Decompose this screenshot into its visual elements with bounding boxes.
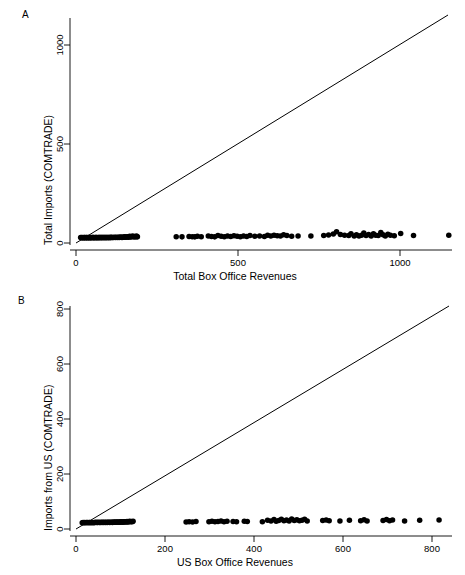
data-point: [173, 234, 179, 240]
panel-b-point-cloud: [79, 516, 441, 525]
panel-a-y-axis-title: Total Imports (COMTRADE): [42, 115, 54, 245]
panel-b-yticklabel-0: 0: [55, 526, 65, 531]
data-point: [304, 518, 310, 524]
panel-b-yticklabel-800: 800: [55, 301, 65, 317]
panel-b-yticklabel-400: 400: [55, 411, 65, 427]
data-point: [130, 518, 136, 524]
data-point: [326, 232, 332, 238]
panel-a-xticklabel-0: 0: [73, 258, 78, 268]
data-point: [289, 234, 295, 240]
data-point: [392, 233, 398, 239]
panel-b-xticklabel-600: 600: [335, 544, 351, 554]
panel-b-yticklabel-200: 200: [55, 466, 65, 482]
data-point: [417, 517, 423, 523]
data-point: [308, 233, 314, 239]
data-point: [337, 518, 343, 524]
panel-b-x-axis-title: US Box Office Revenues: [10, 556, 460, 568]
panel-b-y-axis-title: Imports from US (COMTRADE): [42, 385, 54, 531]
data-point: [247, 233, 253, 239]
data-point: [179, 234, 185, 240]
data-point: [402, 518, 408, 524]
panel-a-yticklabel-0: 0: [55, 240, 65, 245]
data-point: [260, 519, 266, 525]
data-point: [390, 517, 396, 523]
panel-b-xticklabel-200: 200: [157, 544, 173, 554]
data-point: [135, 234, 141, 240]
panel-a-xticklabel-500: 500: [230, 258, 246, 268]
data-point: [446, 232, 452, 238]
data-point: [193, 519, 199, 525]
data-point: [284, 233, 290, 239]
data-point: [326, 518, 332, 524]
panel-a-point-cloud: [78, 229, 452, 241]
panel-a-x-axis-title: Total Box Office Revenues: [10, 270, 460, 282]
data-point: [347, 517, 353, 523]
panel-b-xticklabel-800: 800: [424, 544, 440, 554]
data-point: [198, 234, 204, 240]
panel-a-plot: [0, 0, 465, 287]
panel-a-yticklabel-1000: 1000: [55, 34, 65, 55]
data-point: [436, 517, 442, 523]
data-point: [245, 519, 251, 525]
panel-a-yticklabel-500: 500: [55, 136, 65, 152]
panel-b-plot: [0, 288, 465, 575]
panel-a-identity-line: [76, 15, 448, 243]
panel-a: A 0 500 1000 0 500 1000: [0, 0, 465, 287]
panel-a-xticklabel-1000: 1000: [389, 258, 410, 268]
data-point: [252, 234, 258, 240]
panel-b-xticklabel-0: 0: [73, 544, 78, 554]
panel-b-identity-line: [76, 306, 449, 529]
panel-b-xticklabel-400: 400: [246, 544, 262, 554]
panel-b-yticklabel-600: 600: [55, 356, 65, 372]
data-point: [364, 518, 370, 524]
data-point: [398, 231, 404, 237]
data-point: [295, 233, 301, 239]
data-point: [257, 233, 263, 239]
figure-container: A 0 500 1000 0 500 1000: [0, 0, 465, 575]
data-point: [224, 518, 230, 524]
data-point: [234, 519, 240, 525]
data-point: [411, 233, 417, 239]
panel-b: B 0 200 400 600 800 0: [0, 288, 465, 575]
data-point: [321, 233, 327, 239]
